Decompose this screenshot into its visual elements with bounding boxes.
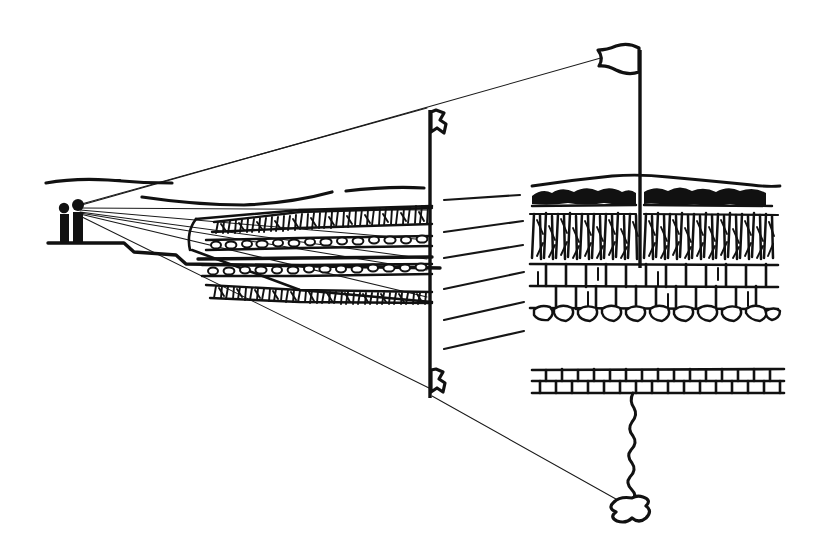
- layer-gravel-lower: [202, 263, 432, 276]
- leader-line-5: [444, 302, 524, 320]
- topsoil-base-line: [532, 205, 772, 206]
- sightline-to-pole-top: [78, 108, 427, 205]
- pole-top-flag-icon: [431, 110, 446, 133]
- leader-line-1: [444, 195, 520, 200]
- observer-figures: [59, 199, 84, 243]
- masonry-joints-upper: [546, 264, 766, 287]
- leader-line-2: [444, 221, 523, 232]
- sightline-to-lower-blob: [432, 396, 632, 508]
- lower-rock-slab: [532, 369, 784, 393]
- detail-panel: [530, 44, 780, 321]
- gravel-lower-top: [202, 264, 432, 265]
- observer-head-left: [59, 203, 69, 213]
- root-trace-line: [628, 393, 636, 499]
- layer-gravel-upper: [206, 235, 432, 250]
- lower-slab-joints-lower: [540, 381, 780, 393]
- root-terminal-blob: [611, 496, 650, 522]
- lower-detail-group: [532, 369, 784, 522]
- pole-base-flag-icon: [431, 369, 445, 392]
- leader-line-6: [444, 331, 524, 349]
- detail-topsoil-layer: [532, 188, 772, 207]
- leader-line-3: [444, 245, 523, 258]
- leader-line-group: [444, 195, 524, 349]
- topsoil-clumps-left: [532, 188, 636, 205]
- survey-pole-group: [430, 110, 446, 398]
- illustration-svg: [0, 0, 813, 547]
- illustration-canvas: [0, 0, 813, 547]
- detail-root-zone-layer: [530, 213, 778, 259]
- mid-ridge-left: [142, 192, 332, 205]
- observer-body-left: [60, 214, 69, 242]
- topsoil-clumps-right: [644, 188, 766, 207]
- detail-ground-surface-line: [532, 175, 780, 186]
- mid-ridge-group: [142, 187, 424, 205]
- detail-masonry-layer: [530, 264, 778, 309]
- layer-root-mat-lower: [206, 285, 432, 304]
- detail-flag-icon: [598, 44, 639, 73]
- wedge-left-cap: [189, 219, 196, 250]
- sightline-group: [78, 48, 636, 508]
- root-zone-texture: [537, 219, 774, 243]
- leader-line-4: [444, 272, 524, 289]
- observer-head-right: [72, 199, 84, 211]
- gravel-lower-bottom: [202, 274, 432, 276]
- observer-body-right: [73, 212, 83, 243]
- mid-ridge-right: [346, 187, 424, 191]
- layer-solid-seam: [198, 257, 432, 259]
- gravel-upper-bottom: [206, 246, 432, 250]
